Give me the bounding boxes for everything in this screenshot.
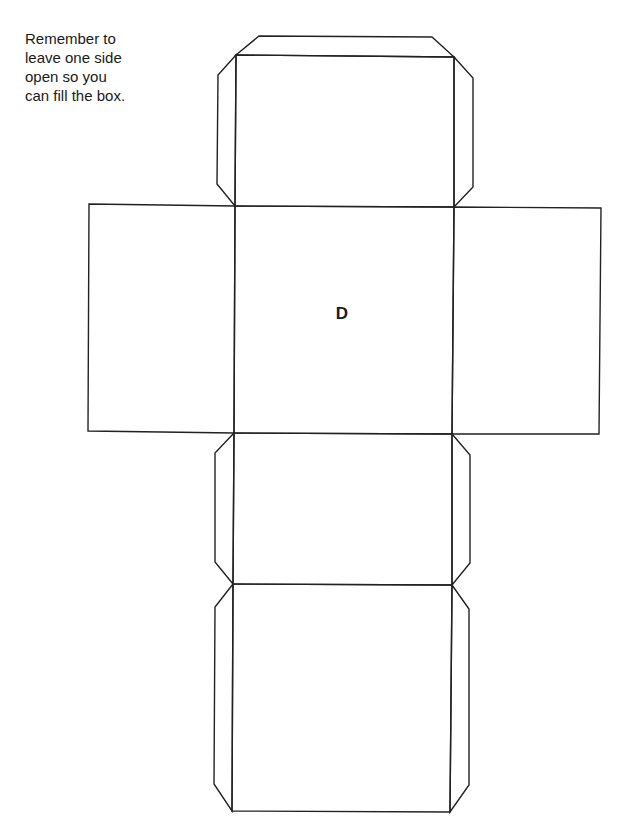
tab-top-right xyxy=(454,57,473,207)
tab-top xyxy=(236,36,454,57)
face-top xyxy=(235,55,454,207)
face-left xyxy=(88,204,235,433)
tab-top-left xyxy=(217,55,236,206)
center-face-label: D xyxy=(330,304,354,324)
box-net-diagram xyxy=(0,0,623,823)
tab-bottom-right xyxy=(450,585,469,812)
face-lower xyxy=(233,433,452,585)
tab-lower-right xyxy=(452,434,470,585)
tab-bottom-left xyxy=(214,584,233,811)
tab-lower-left xyxy=(215,433,234,584)
face-right xyxy=(452,207,601,434)
face-bottom xyxy=(232,584,452,812)
